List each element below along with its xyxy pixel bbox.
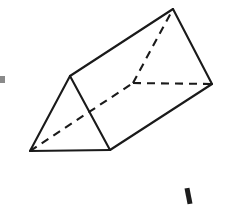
stray-mark-bottom-right <box>185 188 193 205</box>
figure-canvas <box>0 0 227 208</box>
stray-mark-left-edge <box>0 76 5 83</box>
front-triangle-base <box>30 150 110 151</box>
triangular-prism-drawing <box>0 0 227 208</box>
